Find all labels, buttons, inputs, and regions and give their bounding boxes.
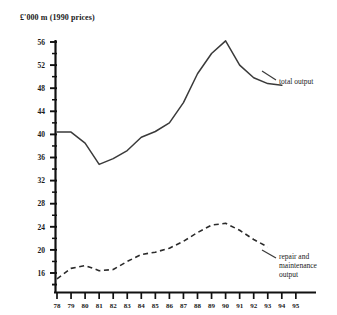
x-tick-label: 91 <box>236 302 244 310</box>
y-tick-label: 36 <box>38 153 46 162</box>
series-label-repair-line-3: output <box>279 270 299 279</box>
x-tick-label: 78 <box>54 302 62 310</box>
y-tick-label: 28 <box>38 199 46 208</box>
x-tick-label: 87 <box>180 302 188 310</box>
series-line-repair-maintenance <box>57 223 268 278</box>
x-tick-label: 85 <box>152 302 160 310</box>
chart-plot-area: 1620242832364044485256 78798081828384858… <box>0 0 337 315</box>
x-tick-label: 86 <box>166 302 174 310</box>
y-tick-label: 16 <box>38 269 46 278</box>
y-tick-label: 52 <box>38 61 46 70</box>
x-tick-label: 95 <box>292 302 300 310</box>
chart-container: £'000 m (1990 prices) 162024283236404448… <box>0 0 337 315</box>
x-tick-label: 94 <box>278 302 286 310</box>
y-tick-label: 44 <box>38 107 46 116</box>
x-tick-label: 80 <box>82 302 90 310</box>
x-tick-label: 82 <box>110 302 118 310</box>
y-tick-label: 20 <box>38 246 46 255</box>
series-label-repair-line-1: repair and <box>279 252 309 261</box>
series-label-total-output: total output <box>279 77 314 86</box>
y-tick-label: 40 <box>38 130 46 139</box>
repair-maintenance-leader-line <box>262 250 276 258</box>
x-tick-label: 93 <box>264 302 272 310</box>
total-output-leader-line <box>262 71 276 80</box>
x-axis-tick-labels: 787980818283848586878889909192939495 <box>54 302 300 310</box>
x-tick-label: 81 <box>96 302 104 310</box>
y-tick-label: 24 <box>38 223 46 232</box>
y-tick-label: 48 <box>38 84 46 93</box>
x-tick-label: 92 <box>250 302 258 310</box>
x-tick-label: 90 <box>222 302 230 310</box>
x-tick-label: 83 <box>124 302 132 310</box>
x-tick-label: 79 <box>68 302 76 310</box>
series-line-total-output <box>57 41 282 165</box>
x-tick-label: 88 <box>194 302 202 310</box>
x-tick-label: 84 <box>138 302 146 310</box>
y-tick-label: 32 <box>38 176 46 185</box>
x-tick-label: 89 <box>208 302 216 310</box>
y-axis-tick-labels: 1620242832364044485256 <box>38 38 46 278</box>
y-tick-label: 56 <box>38 38 46 47</box>
series-label-repair-line-2: maintenance <box>279 261 318 270</box>
